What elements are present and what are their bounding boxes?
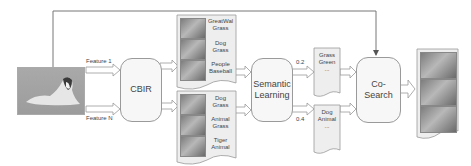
concepts-top: Grass Green ...	[314, 52, 340, 74]
cbir-block: CBIR	[120, 58, 162, 122]
result-thumb	[180, 136, 206, 157]
weight-top: 0.2	[296, 59, 304, 65]
feature-1-label: Feature 1	[86, 58, 112, 64]
result-thumb	[180, 18, 206, 39]
final-result-thumb	[420, 79, 457, 106]
final-result-thumb	[420, 52, 457, 79]
co-search-block: Co-Search	[356, 57, 401, 123]
concepts-bottom: Dog Animal ...	[314, 109, 340, 131]
cbir-label: CBIR	[130, 84, 152, 95]
semantic-learning-block: Semantic Learning	[251, 58, 293, 122]
result-caption: Dog Grass	[205, 95, 236, 109]
weight-bottom: 0.4	[296, 116, 304, 122]
result-caption: GreatWal Grass	[205, 18, 236, 32]
result-caption: Tiger Animal	[205, 137, 236, 151]
dog-icon	[18, 68, 84, 114]
result-thumb	[180, 39, 206, 60]
result-thumb	[180, 94, 206, 115]
final-result-thumb	[420, 106, 457, 133]
result-caption: People Baseball	[205, 61, 236, 75]
query-image	[17, 67, 85, 115]
result-caption: Dog Grass	[205, 40, 236, 54]
result-thumb	[180, 115, 206, 136]
result-thumb	[180, 60, 206, 81]
feature-n-label: Feature N	[86, 115, 113, 121]
result-caption: Animal Grass	[205, 116, 236, 130]
